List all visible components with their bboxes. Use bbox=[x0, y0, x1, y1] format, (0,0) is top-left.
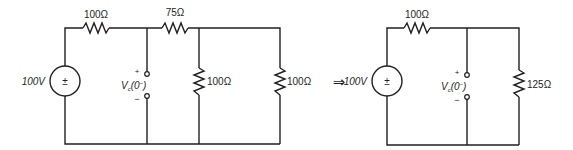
terminal-plus-sign: + bbox=[135, 67, 140, 76]
capacitor-voltage-label: Vc(0−) bbox=[441, 81, 466, 93]
resistor-r1-icon bbox=[83, 23, 109, 33]
right-wire-bottom-rail bbox=[387, 96, 519, 145]
terminal-plus-sign: + bbox=[455, 68, 460, 77]
resistor-req-label: 125Ω bbox=[527, 79, 552, 90]
resistor-r4-icon bbox=[275, 68, 285, 95]
capacitor-voltage-label: Vc(0−) bbox=[121, 80, 146, 92]
resistor-r3-label: 100Ω bbox=[207, 76, 232, 87]
source-polarity-symbol: ± bbox=[384, 76, 390, 87]
terminal-plus-icon bbox=[465, 73, 470, 78]
resistor-r2-icon bbox=[162, 23, 188, 33]
resistor-r3-icon bbox=[194, 68, 204, 95]
right-wire-source-top bbox=[387, 28, 404, 66]
resistor-r2-label: 75Ω bbox=[166, 7, 185, 18]
right-wire-r1-to-right bbox=[430, 28, 519, 70]
terminal-minus-icon bbox=[145, 94, 150, 99]
resistor-req-icon bbox=[514, 70, 524, 97]
circuit-diagram: ± 100V 100Ω 75Ω 100Ω 100Ω + − Vc(0−) ⇒ ± bbox=[0, 0, 573, 150]
left-circuit: ± 100V 100Ω 75Ω 100Ω 100Ω + − Vc(0−) bbox=[22, 7, 312, 144]
terminal-minus-sign: − bbox=[454, 95, 459, 105]
resistor-r4-label: 100Ω bbox=[287, 76, 312, 87]
source-label: 100V bbox=[22, 76, 47, 87]
terminal-minus-icon bbox=[465, 95, 470, 100]
resistor-r1-icon bbox=[404, 23, 430, 33]
source-label: 100V bbox=[344, 76, 369, 87]
terminal-plus-icon bbox=[145, 72, 150, 77]
left-wire-source-top bbox=[65, 28, 83, 66]
terminal-minus-sign: − bbox=[134, 94, 139, 104]
resistor-r1-label: 100Ω bbox=[405, 9, 430, 20]
left-wire-r2-to-right bbox=[188, 28, 280, 68]
right-circuit: ± 100V 100Ω 125Ω + − Vc(0−) bbox=[344, 9, 552, 145]
left-wire-bottom-rail bbox=[65, 96, 280, 144]
resistor-r1-label: 100Ω bbox=[84, 9, 109, 20]
source-polarity-symbol: ± bbox=[62, 76, 68, 87]
